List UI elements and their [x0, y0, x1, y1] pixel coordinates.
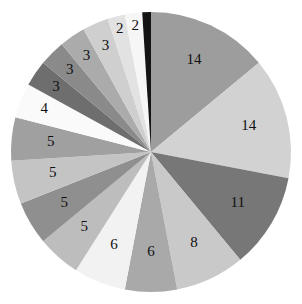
- pie-slice-label: 5: [49, 164, 57, 180]
- pie-slice-label: 3: [52, 78, 60, 94]
- pie-slice-label: 4: [41, 100, 49, 116]
- pie-chart-figure: 141411866555543333221: [0, 0, 302, 304]
- pie-slice-label: 8: [190, 234, 198, 250]
- pie-slice-label: 5: [81, 218, 89, 234]
- pie-slice-label: 1: [143, 16, 151, 32]
- pie-chart-svg: 141411866555543333221: [0, 0, 302, 304]
- pie-slice-label: 2: [131, 17, 139, 33]
- pie-slice-label: 14: [186, 51, 202, 67]
- pie-slice-label: 2: [116, 20, 124, 36]
- pie-slice-label: 5: [60, 194, 68, 210]
- pie-slice-label: 6: [147, 243, 155, 259]
- pie-slice-label: 6: [110, 236, 118, 252]
- pie-slice-label: 3: [83, 47, 91, 63]
- pie-slice-label: 3: [102, 37, 110, 53]
- pie-slice-label: 11: [231, 194, 245, 210]
- pie-slice-label: 5: [47, 133, 55, 149]
- pie-slice-label: 14: [241, 117, 257, 133]
- pie-slice-label: 3: [66, 61, 74, 77]
